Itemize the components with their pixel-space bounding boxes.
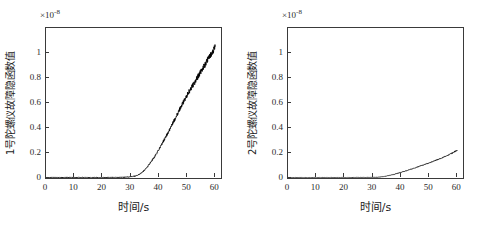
y-tick-mark [45,127,49,128]
x-tick-label: 20 [332,182,354,192]
y-tick-label: 0.2 [15,147,41,157]
x-tick-mark [214,173,215,177]
y-tick-mark [287,127,291,128]
y-tick-label: 0.2 [257,147,283,157]
series-line [288,150,457,178]
exponent-mantissa-2: ×10 [282,10,296,20]
x-tick-mark [186,173,187,177]
x-tick-label: 30 [361,182,383,192]
x-tick-label: 50 [417,182,439,192]
data-curve-2 [288,28,463,178]
x-tick-mark [343,173,344,177]
y-axis-label-2: 2号陀螺仪故障隐函数值 [244,27,257,179]
x-tick-mark [101,173,102,177]
y-tick-mark [45,152,49,153]
y-tick-label: 1 [257,47,283,57]
y-tick-label: 1 [15,47,41,57]
x-axis-label-2: 时间/s [287,198,464,214]
x-tick-label: 10 [62,182,84,192]
y-tick-mark [287,177,291,178]
x-axis-label-1: 时间/s [45,198,222,214]
y-tick-mark [45,177,49,178]
y-tick-label: 0.8 [257,72,283,82]
series-line [46,45,215,178]
y-tick-mark [45,77,49,78]
x-tick-label: 0 [34,182,56,192]
y-axis-label-1: 1号陀螺仪故障隐函数值 [2,27,15,179]
y-tick-label: 0.6 [257,97,283,107]
x-tick-mark [456,173,457,177]
y-tick-mark [45,102,49,103]
exponent-power-1: -8 [54,8,60,16]
y-tick-label: 0 [15,172,41,182]
y-tick-label: 0.4 [257,122,283,132]
x-tick-label: 60 [203,182,225,192]
x-tick-mark [315,173,316,177]
x-tick-mark [372,173,373,177]
x-tick-label: 0 [276,182,298,192]
chart-panel-1: ×10-8 00.20.40.60.81 0102030405060 时间/s … [0,0,241,226]
y-tick-mark [287,152,291,153]
x-tick-mark [400,173,401,177]
y-tick-label: 0 [257,172,283,182]
x-tick-mark [287,173,288,177]
chart-panel-2: ×10-8 00.20.40.60.81 0102030405060 时间/s … [241,0,482,226]
y-tick-mark [287,77,291,78]
x-tick-label: 30 [119,182,141,192]
x-tick-label: 50 [175,182,197,192]
plot-area-2 [287,27,464,179]
x-tick-mark [130,173,131,177]
y-tick-mark [45,52,49,53]
data-curve-1 [46,28,221,178]
y-axis-exponent-label-2: ×10-8 [282,8,302,20]
x-tick-label: 20 [90,182,112,192]
x-tick-label: 40 [389,182,411,192]
y-tick-label: 0.4 [15,122,41,132]
x-tick-label: 40 [147,182,169,192]
plot-area-1 [45,27,222,179]
x-tick-mark [45,173,46,177]
figure-row: ×10-8 00.20.40.60.81 0102030405060 时间/s … [0,0,483,226]
y-tick-label: 0.8 [15,72,41,82]
x-tick-label: 10 [304,182,326,192]
y-axis-exponent-label-1: ×10-8 [40,8,60,20]
x-tick-label: 60 [445,182,467,192]
y-tick-label: 0.6 [15,97,41,107]
x-tick-mark [428,173,429,177]
x-tick-mark [73,173,74,177]
y-tick-mark [287,102,291,103]
y-tick-mark [287,52,291,53]
exponent-mantissa-1: ×10 [40,10,54,20]
x-tick-mark [158,173,159,177]
exponent-power-2: -8 [296,8,302,16]
